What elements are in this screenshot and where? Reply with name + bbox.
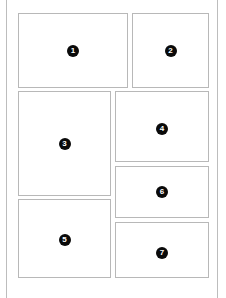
number-badge-3: 3 [59, 138, 71, 150]
panel-7: 7 [115, 222, 209, 278]
panel-4: 4 [115, 91, 209, 162]
number-badge-4: 4 [156, 123, 168, 135]
panel-6: 6 [115, 166, 209, 218]
panel-3: 3 [18, 91, 111, 196]
number-badge-1: 1 [67, 45, 79, 57]
number-badge-6: 6 [156, 186, 168, 198]
panel-2: 2 [132, 13, 209, 88]
number-badge-7: 7 [156, 247, 168, 259]
number-badge-2: 2 [165, 45, 177, 57]
panel-1: 1 [18, 13, 128, 88]
number-badge-5: 5 [59, 234, 71, 246]
panel-5: 5 [18, 199, 111, 278]
